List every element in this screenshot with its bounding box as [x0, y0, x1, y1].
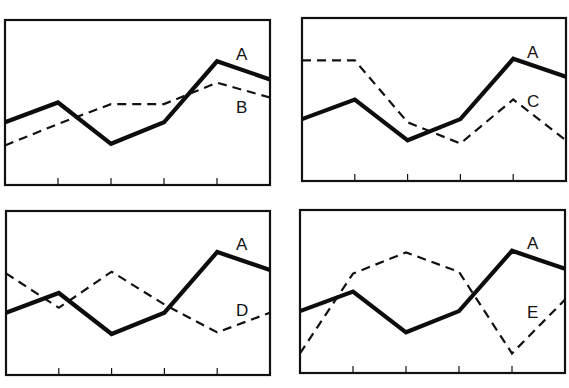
- plot-frame: [5, 20, 270, 185]
- series-label-a: A: [236, 45, 248, 64]
- plot-frame: [300, 210, 565, 373]
- series-label-c: C: [527, 92, 539, 111]
- series-line-a: [5, 61, 270, 144]
- series-line-a: [6, 252, 270, 334]
- series-label-a: A: [236, 235, 248, 254]
- series-label-a: A: [527, 43, 539, 62]
- panel-top-left: AB: [5, 20, 270, 185]
- series-label-e: E: [527, 303, 538, 322]
- panel-bottom-left: AD: [6, 211, 270, 375]
- series-line-e: [300, 252, 565, 353]
- figure-small-multiples: AB AC AD AE: [0, 0, 569, 388]
- series-label-a: A: [527, 234, 539, 253]
- series-label-d: D: [236, 301, 248, 320]
- plot-frame: [6, 211, 270, 375]
- panel-top-right: AC: [302, 18, 566, 181]
- series-line-b: [5, 83, 270, 146]
- series-label-b: B: [236, 98, 247, 117]
- panel-bottom-right: AE: [300, 210, 565, 373]
